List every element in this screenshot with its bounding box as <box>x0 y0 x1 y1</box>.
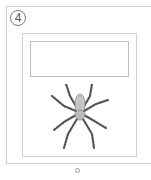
step-number-badge: 4 <box>10 10 26 26</box>
page-indicator-dot[interactable] <box>75 168 80 173</box>
spider-icon <box>50 84 110 150</box>
text-input-box[interactable] <box>30 41 129 77</box>
